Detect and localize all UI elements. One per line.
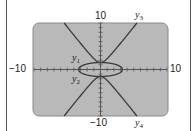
x-max-label: 10 bbox=[170, 64, 181, 74]
y4-label: y4 bbox=[135, 118, 143, 128]
x-min-label: −10 bbox=[9, 64, 26, 74]
y-min-label: −10 bbox=[90, 118, 107, 128]
y3-label: y3 bbox=[135, 10, 143, 20]
y2-label: y2 bbox=[72, 74, 80, 84]
y1-label: y1 bbox=[72, 53, 80, 63]
y-max-label: 10 bbox=[95, 11, 106, 21]
